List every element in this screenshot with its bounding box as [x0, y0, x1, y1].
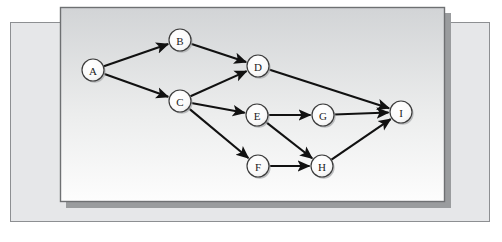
node-circle[interactable]: [169, 90, 191, 112]
node-circle[interactable]: [169, 29, 191, 51]
node-circle[interactable]: [390, 101, 412, 123]
figure-canvas: ABCDEFGHI: [0, 0, 502, 242]
node-circle[interactable]: [247, 155, 269, 177]
node-circle[interactable]: [312, 104, 334, 126]
node-circle[interactable]: [246, 104, 268, 126]
node-circle[interactable]: [82, 59, 104, 81]
node-circle[interactable]: [247, 55, 269, 77]
node-circle[interactable]: [311, 155, 333, 177]
diagram-svg: ABCDEFGHI: [0, 0, 502, 242]
